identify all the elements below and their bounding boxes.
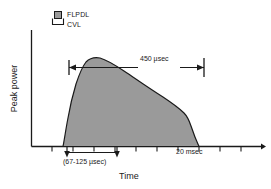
y-axis-label: Peak power: [10, 54, 19, 124]
time-scale-label: 20 msec: [176, 148, 202, 155]
bracket-marker: [53, 19, 64, 25]
x-axis-ticks: [52, 147, 241, 152]
legend-group: [53, 12, 64, 25]
legend-item-flpdl-label: FLPDL: [67, 11, 89, 18]
x-axis-arrowhead: [261, 143, 266, 149]
pulse-width-upper-label: 450 µsec: [140, 55, 169, 62]
x-axis-label: Time: [119, 172, 139, 181]
legend-item-cvl-label: CVL: [67, 21, 81, 28]
chart-svg: [0, 0, 271, 189]
pulse-width-lower-label: (67-125 µsec): [63, 158, 106, 165]
pulse-waveform-figure: FLPDL CVL 450 µsec (67-125 µsec) 20 msec…: [0, 0, 271, 189]
filled-square-marker: [55, 12, 62, 19]
